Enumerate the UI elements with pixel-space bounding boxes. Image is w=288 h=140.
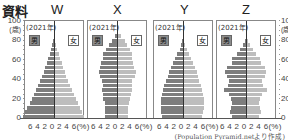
male-bar (102, 88, 117, 92)
center-axis (117, 21, 118, 119)
male-bar (34, 93, 54, 97)
female-bar (183, 84, 201, 88)
pyramid-panel-y: (2021年) 男 女 (153, 20, 213, 119)
panel-label-y: Y (180, 2, 189, 17)
male-bar (227, 75, 246, 79)
male-bar (227, 66, 246, 70)
female-bar (117, 97, 130, 101)
male-bar (232, 57, 246, 61)
center-axis (54, 21, 55, 119)
male-bar (25, 110, 54, 114)
female-bar (246, 88, 267, 92)
female-bar (117, 84, 132, 88)
male-bar (103, 57, 118, 61)
female-bar (54, 79, 68, 83)
female-bar (54, 66, 63, 70)
male-bar (164, 84, 183, 88)
male-bar (30, 101, 54, 105)
male-bar (232, 61, 247, 65)
male-bar (101, 61, 117, 65)
x-ticks-z: 6 4 2 0 2 4 6(%) (220, 122, 282, 131)
female-bar (183, 79, 199, 83)
female-bar (183, 93, 203, 97)
female-bar (117, 66, 134, 70)
male-bar (100, 66, 117, 70)
male-bar (171, 66, 183, 70)
male-bar (173, 61, 183, 65)
pyramid-panel-w: (2021年) 男 女 (24, 20, 84, 119)
male-bar (168, 75, 183, 79)
male-bar (175, 57, 183, 61)
female-bar (117, 110, 128, 114)
y-tick-60: 60 (12, 55, 21, 64)
female-bar (246, 106, 260, 110)
male-bar (161, 106, 183, 110)
female-bar (246, 93, 262, 97)
male-bar (229, 79, 246, 83)
male-bar (27, 106, 54, 110)
y-tick-40-right: 40 (281, 74, 288, 83)
male-bar (229, 93, 246, 97)
panel-label-w: W (51, 2, 63, 17)
female-bar (117, 106, 128, 110)
y-tick-20-right: 20 (281, 94, 288, 103)
female-bar (117, 61, 133, 65)
y-unit-right: (歳) (281, 24, 288, 34)
male-bar (44, 70, 54, 74)
female-bar (246, 101, 259, 105)
female-bar (183, 110, 203, 114)
x-ticks-w: 6 4 2 0 2 4 6(%) (28, 122, 90, 131)
pyramid-panel-x: (2021年) 男 女 (87, 20, 147, 119)
female-bar (117, 70, 136, 74)
x-ticks-x: 6 4 2 0 2 4 6(%) (91, 122, 153, 131)
male-bar (103, 52, 117, 56)
male-bar (42, 75, 54, 79)
male-bar (45, 66, 54, 70)
y-unit: (歳) (9, 24, 21, 34)
female-bar (183, 106, 204, 110)
female-bar (117, 93, 131, 97)
female-bar (117, 57, 132, 61)
female-bar (117, 39, 125, 43)
male-bar (161, 97, 183, 101)
male-bar (105, 101, 117, 105)
female-bar (183, 57, 191, 61)
y-tick-40: 40 (12, 74, 21, 83)
female-bar (54, 61, 62, 65)
y-tick-60-right: 60 (281, 55, 288, 64)
male-bar (161, 101, 183, 105)
female-bar (183, 66, 195, 70)
male-bar (102, 79, 117, 83)
female-bar (54, 75, 66, 79)
female-bar (54, 88, 72, 92)
female-bar (54, 101, 78, 105)
center-axis (246, 21, 247, 119)
female-bar (183, 61, 193, 65)
male-bar (232, 101, 247, 105)
female-bar (183, 97, 204, 101)
male-bar (230, 110, 246, 114)
male-bar (166, 79, 183, 83)
male-bar (228, 84, 246, 88)
female-bar (183, 70, 197, 74)
male-bar (231, 106, 246, 110)
male-bar (99, 70, 117, 74)
male-bar (225, 70, 246, 74)
male-bar (32, 97, 54, 101)
female-bar (246, 70, 266, 74)
male-bar (231, 97, 246, 101)
male-bar (161, 110, 183, 114)
female-bar (117, 101, 129, 105)
pyramid-panel-z: (2021年) 男 女 (216, 20, 276, 119)
female-bar (246, 61, 261, 65)
male-bar (38, 84, 54, 88)
female-bar (54, 70, 65, 74)
male-bar (100, 75, 117, 79)
male-bar (103, 84, 118, 88)
female-bar (54, 110, 82, 114)
right-y-axis: 100 (歳) 80 60 40 20 0 (281, 0, 288, 140)
panel-label-z: Z (242, 2, 250, 17)
male-bar (105, 110, 117, 114)
female-bar (117, 79, 132, 83)
male-bar (36, 88, 54, 92)
